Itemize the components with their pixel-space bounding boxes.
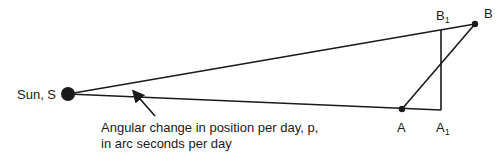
point-a-dot — [399, 106, 405, 112]
point-a1-label: A1 — [436, 120, 450, 137]
line-sun-to-b — [68, 24, 475, 94]
annotation-arrow — [134, 92, 155, 116]
parallax-diagram: Sun, S A A1 B1 B Angular change in posit… — [0, 0, 504, 157]
line-a-to-b — [402, 24, 475, 109]
annotation-line-2: in arc seconds per day — [101, 136, 232, 151]
annotation-line-1: Angular change in position per day, p, — [101, 120, 318, 135]
point-a-label: A — [397, 120, 406, 135]
line-sun-to-a1 — [68, 94, 441, 110]
sun-label: Sun, S — [17, 87, 56, 102]
point-b1-label: B1 — [436, 8, 450, 25]
point-b-label: B — [484, 6, 493, 21]
sun-dot — [61, 87, 75, 101]
point-b-dot — [472, 21, 478, 27]
